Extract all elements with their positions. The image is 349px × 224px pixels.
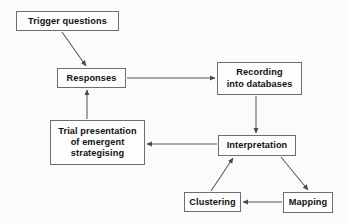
diagram-canvas: Trigger questions Responses Recording in… bbox=[0, 0, 349, 224]
node-trigger-questions[interactable]: Trigger questions bbox=[16, 11, 119, 31]
edge-trigger-to-responses bbox=[62, 32, 86, 66]
edge-clustering-to-interpretation bbox=[211, 158, 233, 191]
node-mapping[interactable]: Mapping bbox=[283, 192, 333, 213]
node-recording-into-databases[interactable]: Recording into databases bbox=[217, 62, 302, 95]
node-interpretation[interactable]: Interpretation bbox=[218, 135, 296, 156]
edge-interpretation-to-mapping bbox=[281, 157, 308, 190]
node-clustering[interactable]: Clustering bbox=[184, 192, 241, 212]
node-trial-presentation-of-emergent-strategising[interactable]: Trial presentation of emergent strategis… bbox=[50, 120, 145, 165]
node-responses[interactable]: Responses bbox=[57, 68, 126, 88]
edge-layer bbox=[0, 0, 349, 224]
